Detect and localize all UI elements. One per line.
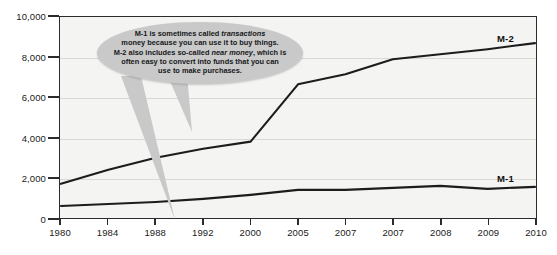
x-tick-label: 1984: [97, 227, 119, 238]
y-tick-mark: [48, 15, 59, 17]
callout-text: M-1 is sometimes called transactions mon…: [108, 29, 292, 75]
callout-line4: often easy to convert into funds that yo…: [121, 57, 279, 66]
callout-line3-a: M-2 also includes so-called: [114, 48, 212, 57]
y-tick-label: 10,000: [16, 11, 46, 22]
y-tick-label: 4,000: [22, 132, 46, 143]
x-tick-mark: [488, 219, 490, 225]
x-axis: 1980198419881992200020052007200720082009…: [59, 219, 537, 255]
x-tick-mark: [202, 219, 204, 225]
x-tick-label: 2009: [478, 227, 500, 238]
x-tick-mark: [107, 219, 109, 225]
x-tick-mark: [154, 219, 156, 225]
y-tick-label: 2,000: [22, 173, 46, 184]
y-tick-label: 6,000: [22, 92, 46, 103]
y-tick-label: 8,000: [22, 51, 46, 62]
y-tick-mark: [48, 56, 59, 58]
y-tick-mark: [48, 177, 59, 179]
callout-tail-to-m1: [121, 76, 175, 220]
x-tick-mark: [297, 219, 299, 225]
y-axis: 10,000 8,000 6,000 4,000 2,000 0: [0, 0, 46, 255]
money-supply-chart: 10,000 8,000 6,000 4,000 2,000 0 M-2 M-1: [0, 0, 557, 255]
callout-line1-a: M-1 is sometimes called: [135, 29, 222, 38]
callout-tail-group: [115, 72, 305, 242]
x-tick-label: 2008: [430, 227, 452, 238]
x-tick-mark: [440, 219, 442, 225]
y-tick-mark: [48, 96, 59, 98]
x-tick-mark: [250, 219, 252, 225]
callout-line2: money because you can use it to buy thin…: [121, 38, 278, 47]
x-tick-label: 2000: [240, 227, 262, 238]
x-tick-mark: [392, 219, 394, 225]
callout-line5: use to make purchases.: [158, 66, 242, 75]
x-tick-label: 2005: [287, 227, 309, 238]
money-definition-callout: M-1 is sometimes called transactions mon…: [97, 22, 303, 102]
x-tick-label: 2010: [525, 227, 547, 238]
x-tick-label: 1992: [192, 227, 214, 238]
x-tick-mark: [345, 219, 347, 225]
x-tick-label: 1980: [49, 227, 71, 238]
x-tick-label: 1988: [144, 227, 166, 238]
series-label-m2: M-2: [497, 33, 514, 44]
y-tick-label: 0: [41, 214, 46, 225]
callout-term-transactions: transactions: [221, 29, 265, 38]
x-tick-label: 2007: [382, 227, 404, 238]
x-tick-label: 2007: [335, 227, 357, 238]
y-tick-mark: [48, 218, 59, 220]
callout-line3-c: , which is: [253, 48, 286, 57]
series-label-m1: M-1: [497, 173, 514, 184]
x-tick-mark: [59, 219, 61, 225]
callout-term-near-money: near money: [211, 48, 253, 57]
y-tick-mark: [48, 137, 59, 139]
x-tick-mark: [535, 219, 537, 225]
